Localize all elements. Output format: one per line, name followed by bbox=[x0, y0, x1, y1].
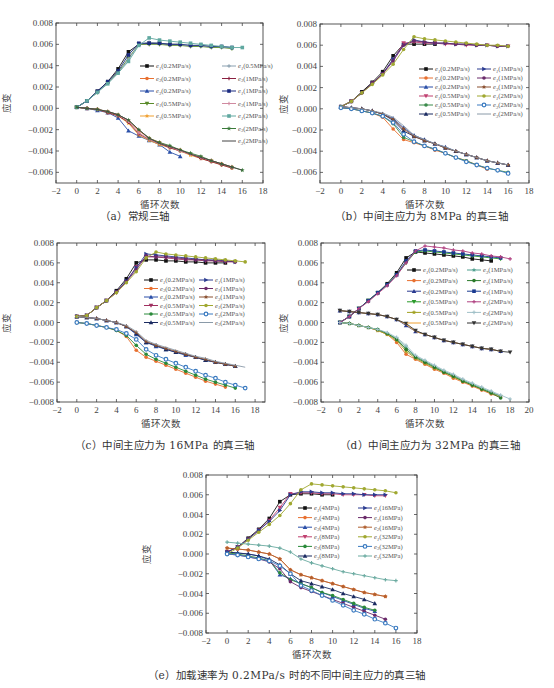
legend-label: e3(0.5MPa/s) bbox=[156, 112, 191, 121]
data-point bbox=[105, 326, 109, 330]
x-tick-label: 18 bbox=[506, 405, 516, 415]
data-point bbox=[257, 557, 261, 561]
y-tick-label: −0.006 bbox=[29, 377, 55, 387]
data-point bbox=[278, 571, 282, 575]
legend-label: e3(0.5MPa/s) bbox=[435, 110, 470, 119]
data-point bbox=[178, 40, 182, 44]
data-point bbox=[341, 485, 345, 489]
legend-marker bbox=[227, 89, 231, 93]
data-point bbox=[194, 369, 198, 373]
data-point bbox=[444, 39, 448, 43]
legend-marker bbox=[424, 76, 428, 80]
x-tick-label: 2 bbox=[94, 405, 99, 415]
legend-marker bbox=[482, 103, 486, 107]
legend-entry: e1(32MPa) bbox=[358, 533, 403, 542]
data-point bbox=[243, 260, 247, 264]
data-point bbox=[391, 62, 395, 66]
legend-label: e3(2MPa/s) bbox=[215, 319, 245, 328]
data-point bbox=[214, 257, 218, 261]
legend-entry: e1(0.2MPa/s) bbox=[407, 266, 458, 275]
legend-marker bbox=[303, 516, 307, 520]
data-point bbox=[433, 38, 437, 42]
legend-entry: e3(2MPa/s) bbox=[222, 125, 268, 134]
legend-marker bbox=[472, 268, 477, 272]
legend-marker bbox=[227, 114, 231, 118]
x-axis-label: 循环次数 bbox=[405, 418, 445, 429]
legend-label: e1(1MPa/s) bbox=[215, 276, 245, 285]
data-point bbox=[423, 244, 427, 248]
data-point bbox=[125, 281, 129, 285]
legend-entry: e3(8MPa) bbox=[298, 552, 339, 561]
data-point bbox=[360, 91, 364, 95]
series-d-3 bbox=[338, 249, 503, 325]
legend-entry: e1(2MPa/s) bbox=[222, 112, 268, 121]
x-tick-label: 18 bbox=[251, 405, 261, 415]
data-point bbox=[268, 523, 272, 527]
x-tick-label: 6 bbox=[137, 186, 142, 196]
chart-svg-d: −2024681012141618200.0080.0060.0040.0020… bbox=[277, 230, 554, 456]
legend-marker bbox=[149, 287, 153, 291]
x-tick-label: 12 bbox=[449, 405, 458, 415]
series-line bbox=[227, 554, 385, 619]
legend-entry: e3(2MPa/s) bbox=[477, 110, 523, 119]
data-point bbox=[225, 552, 229, 556]
data-point bbox=[320, 564, 324, 568]
x-tick-label: 14 bbox=[483, 186, 493, 196]
legend-entry: e1(2MPa/s) bbox=[199, 302, 245, 311]
series-line bbox=[340, 250, 501, 323]
series-d-5 bbox=[340, 311, 501, 352]
series-line bbox=[227, 493, 385, 552]
legend-entry: e3(0.5MPa/s) bbox=[407, 309, 458, 318]
x-tick-label: 12 bbox=[349, 636, 358, 646]
x-tick-label: 4 bbox=[267, 636, 272, 646]
legend: e1(0.2MPa/s)e3(0.2MPa/s)e3(0.2MPa/s)e1(0… bbox=[419, 65, 523, 119]
legend-label: e3(16MPa) bbox=[374, 514, 403, 523]
data-point bbox=[134, 270, 138, 274]
legend-entry: e3(2MPa/s) bbox=[477, 101, 523, 110]
legend-label: e1(4MPa) bbox=[314, 504, 339, 513]
x-tick-label: 0 bbox=[339, 186, 344, 196]
series-line bbox=[340, 251, 501, 323]
legend: e1(0.2MPa/s)e3(0.2MPa/s)e2(0.2MPa/s)e1(0… bbox=[407, 266, 513, 328]
y-tick-label: −0.004 bbox=[293, 357, 319, 367]
legend-marker bbox=[145, 64, 149, 68]
x-tick-label: 0 bbox=[225, 636, 230, 646]
legend-marker bbox=[204, 304, 208, 308]
legend-marker bbox=[303, 506, 307, 510]
legend-entry: e3(8MPa) bbox=[298, 543, 339, 552]
x-tick-label: 4 bbox=[116, 186, 121, 196]
legend-label: e3(2MPa/s) bbox=[493, 110, 523, 119]
legend-marker bbox=[149, 312, 153, 316]
data-point bbox=[233, 259, 237, 263]
legend-label: e2(32MPa) bbox=[374, 552, 403, 561]
data-point bbox=[331, 594, 335, 598]
data-point bbox=[506, 172, 510, 176]
data-point bbox=[384, 489, 388, 493]
data-point bbox=[257, 543, 261, 547]
data-point bbox=[230, 46, 234, 50]
data-point bbox=[485, 43, 489, 47]
legend-marker bbox=[472, 289, 476, 293]
legend-entry: e3(2MPa/s) bbox=[467, 309, 513, 318]
data-point bbox=[257, 530, 261, 534]
data-point bbox=[144, 348, 148, 352]
y-axis-label: 应变 bbox=[278, 94, 289, 114]
data-point bbox=[412, 39, 416, 43]
legend-entry: e3(2MPa/s) bbox=[199, 319, 245, 328]
data-point bbox=[95, 306, 99, 310]
legend-entry: e3(0.2MPa/s) bbox=[419, 83, 470, 92]
legend-marker bbox=[145, 77, 149, 81]
legend-entry: e1(8MPa) bbox=[298, 533, 339, 542]
y-tick-label: 0.002 bbox=[183, 529, 203, 539]
data-point bbox=[442, 250, 446, 254]
legend-entry: e2(2MPa/s) bbox=[467, 319, 513, 328]
data-point bbox=[412, 140, 416, 144]
data-point bbox=[310, 482, 314, 486]
data-point bbox=[189, 41, 193, 45]
legend-label: e3(0.5MPa/s) bbox=[160, 319, 195, 328]
y-tick-label: 0.008 bbox=[34, 238, 55, 248]
data-point bbox=[341, 570, 345, 574]
chart-svg-e: −20246810121416180.0080.0060.0040.0020.0… bbox=[140, 460, 430, 688]
data-point bbox=[384, 617, 388, 621]
data-point bbox=[381, 114, 385, 118]
